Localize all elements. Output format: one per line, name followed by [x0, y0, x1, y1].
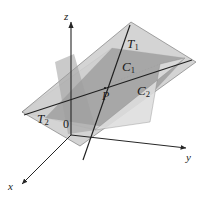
c1-subscript: 1 — [131, 65, 135, 75]
point-p-label: P — [102, 90, 109, 102]
origin-label: 0 — [63, 118, 69, 130]
z-axis-label: z — [64, 11, 68, 22]
t2-subscript: 2 — [44, 117, 48, 127]
t1-subscript: 1 — [134, 42, 138, 52]
tangent-plane-figure: z y x 0 T1 T2 C1 C2 P — [0, 0, 203, 201]
curve-C2-label: C2 — [137, 84, 150, 98]
tangent-line-T1-label: T1 — [127, 37, 139, 51]
x-axis — [22, 135, 71, 184]
c2-subscript: 2 — [146, 89, 150, 99]
x-axis-label: x — [8, 181, 13, 192]
curve-C1-label: C1 — [122, 60, 135, 74]
tangent-line-T2-label: T2 — [37, 112, 49, 126]
y-axis-label: y — [186, 152, 191, 163]
